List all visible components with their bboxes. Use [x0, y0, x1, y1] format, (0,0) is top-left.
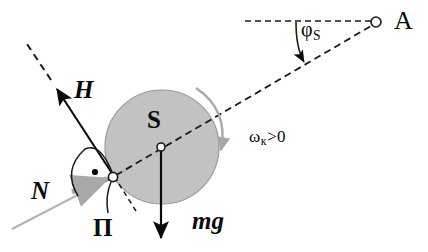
contact-angle-dot: [92, 169, 98, 175]
point-a-label: A: [394, 8, 413, 34]
omega-symbol: ω: [249, 127, 260, 146]
physics-diagram: H S N П mg A φS ωк>0: [0, 0, 428, 252]
force-n-label: N: [31, 178, 49, 203]
point-a-marker: [371, 17, 381, 27]
omega-condition: >0: [266, 127, 285, 146]
force-h-dashed-extension: [27, 44, 51, 80]
weight-mg-label: mg: [192, 208, 224, 233]
disk-center-label: S: [147, 107, 161, 132]
force-n-arrow: [72, 179, 107, 192]
contact-point-label: П: [93, 215, 112, 240]
angle-phi-symbol: φ: [301, 18, 313, 40]
angle-phi-subscript: S: [313, 28, 321, 43]
force-h-label: H: [74, 77, 93, 102]
pi-leader-line: [107, 182, 111, 213]
angle-phi-label: φS: [301, 19, 321, 43]
angular-velocity-label: ωк>0: [249, 128, 285, 148]
disk-center-marker: [157, 143, 165, 151]
contact-point-marker: [108, 172, 117, 181]
